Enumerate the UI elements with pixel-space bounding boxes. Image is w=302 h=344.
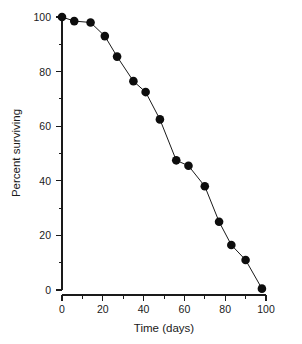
x-tick-label: 80 — [219, 303, 231, 315]
y-tick-label: 100 — [33, 11, 51, 23]
data-point — [113, 52, 122, 61]
x-tick-label: 20 — [97, 303, 109, 315]
x-tick-label: 100 — [257, 303, 275, 315]
x-axis-title: Time (days) — [134, 322, 194, 334]
data-point — [172, 156, 181, 165]
x-tick-label: 60 — [179, 303, 191, 315]
y-tick-label: 80 — [39, 66, 51, 78]
data-point — [101, 32, 110, 41]
data-point — [156, 115, 165, 124]
y-tick-label: 20 — [39, 229, 51, 241]
data-point — [70, 17, 79, 26]
data-point — [184, 161, 193, 170]
data-point — [86, 18, 95, 27]
survival-plot-canvas: 100 80 60 40 20 0 0 20 40 60 80 — [0, 0, 302, 344]
data-point — [58, 13, 67, 22]
y-tick-label: 40 — [39, 175, 51, 187]
data-point — [201, 182, 210, 191]
data-point — [129, 77, 138, 86]
data-point — [258, 284, 267, 293]
x-tick-label: 0 — [59, 303, 65, 315]
y-tick-label: 60 — [39, 120, 51, 132]
survival-curve-figure: 100 80 60 40 20 0 0 20 40 60 80 — [0, 0, 302, 344]
data-point — [141, 88, 150, 97]
x-tick-label: 40 — [138, 303, 150, 315]
data-point — [241, 256, 250, 265]
data-point — [227, 241, 236, 250]
y-tick-label: 0 — [45, 284, 51, 296]
data-point — [215, 217, 224, 226]
y-axis-title: Percent surviving — [10, 109, 22, 197]
